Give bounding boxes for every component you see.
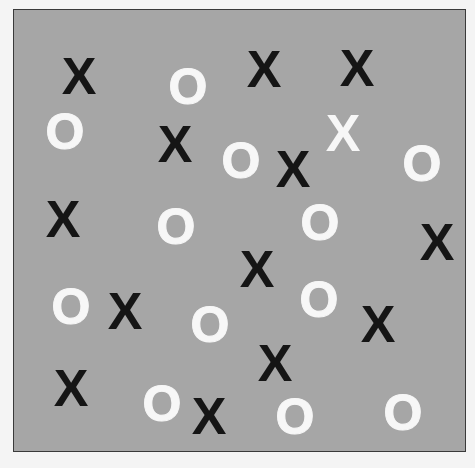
black-x-glyph: X: [361, 298, 396, 350]
white-o-glyph: O: [403, 139, 442, 189]
black-x-glyph: X: [54, 362, 89, 414]
black-x-glyph: X: [247, 43, 282, 95]
black-x-glyph: X: [158, 118, 193, 170]
black-x-glyph: X: [258, 337, 293, 389]
white-o-glyph: O: [222, 136, 261, 186]
white-o-glyph: O: [169, 62, 208, 112]
white-o-glyph: O: [276, 392, 315, 442]
white-o-glyph: O: [52, 282, 91, 332]
black-x-glyph: X: [340, 42, 375, 94]
white-o-glyph: O: [301, 198, 340, 248]
white-o-glyph: O: [46, 107, 85, 157]
black-x-glyph: X: [276, 143, 311, 195]
black-x-glyph: X: [420, 216, 455, 268]
white-o-glyph: O: [191, 300, 230, 350]
black-x-glyph: X: [62, 50, 97, 102]
black-x-glyph: X: [108, 285, 143, 337]
white-o-glyph: O: [157, 202, 196, 252]
white-o-glyph: O: [300, 275, 339, 325]
search-display-panel: XOXXOXXOXOXOOXXOXOOXXXOXOO: [13, 9, 466, 452]
white-o-glyph: O: [143, 379, 182, 429]
black-x-glyph: X: [240, 243, 275, 295]
black-x-glyph: X: [46, 193, 81, 245]
target-white-x: X: [326, 107, 361, 159]
white-o-glyph: O: [384, 388, 423, 438]
black-x-glyph: X: [192, 390, 227, 442]
